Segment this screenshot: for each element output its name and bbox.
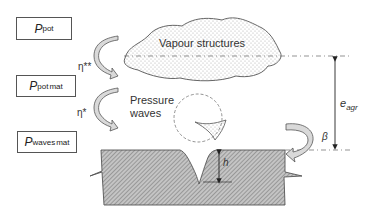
pressure-waves-label-line1: Pressure <box>130 94 174 106</box>
material-block <box>90 150 302 205</box>
e-agr-label: eagr <box>340 97 358 112</box>
eta-double-star-arrow-icon <box>94 36 118 79</box>
vapour-cloud <box>124 18 281 81</box>
pressure-waves-label-line2: waves <box>130 107 161 119</box>
e-subscript: agr <box>346 103 358 112</box>
h-label: h <box>223 157 229 168</box>
eta-double-star-label: η** <box>78 61 91 72</box>
vapour-structures-label: Vapour structures <box>159 37 245 49</box>
eta-star-arrow-icon <box>94 88 118 131</box>
microjet-shape <box>195 120 226 140</box>
beta-label: β <box>322 131 328 142</box>
diagram-canvas <box>0 0 371 217</box>
eta-star-label: η* <box>77 107 86 118</box>
beta-arrow-icon <box>286 124 313 162</box>
